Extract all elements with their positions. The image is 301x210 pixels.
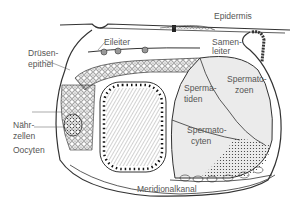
label-spermatozoen-2: zoen <box>235 85 253 95</box>
label-naehrzellen-1: Nähr- <box>13 120 34 130</box>
samenleiter <box>252 32 264 62</box>
label-druesenepithel-2: epithel <box>28 59 53 69</box>
label-samenleiter-2: leiter <box>212 46 230 56</box>
oocyte <box>64 114 82 136</box>
label-meridionalkanal: Meridionalkanal <box>137 184 197 194</box>
diagram-drawing <box>0 0 301 210</box>
label-spermatocyten-1: Spermato- <box>187 125 227 135</box>
label-oocyten: Oocyten <box>13 145 45 155</box>
label-naehrzellen-2: zellen <box>13 131 35 141</box>
label-spermatiden-1: Sperma- <box>184 83 217 93</box>
label-druesenepithel-1: Drüsen- <box>28 48 58 58</box>
label-spermatiden-2: tiden <box>184 94 202 104</box>
label-spermatozoen-1: Spermato- <box>227 74 267 84</box>
label-epidermis: Epidermis <box>214 11 252 21</box>
label-spermatocyten-2: cyten <box>191 136 211 146</box>
label-eileiter: Eileiter <box>104 37 130 47</box>
gonad-diagram: Epidermis Eileiter Samen- leiter Drüsen-… <box>0 0 301 210</box>
